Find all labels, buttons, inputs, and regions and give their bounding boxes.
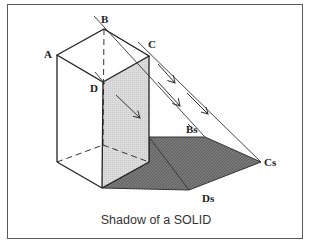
label-ds: Ds [202,192,215,204]
label-c: C [148,38,156,50]
label-a: A [44,48,52,60]
label-b: B [101,13,109,25]
label-bs: Bs [186,123,198,135]
diagram-caption: Shadow of a SOLID [0,213,312,227]
label-cs: Cs [264,156,277,168]
label-d: D [90,82,98,94]
solid-shadow-diagram: A B C D Bs Cs Ds [0,0,312,245]
